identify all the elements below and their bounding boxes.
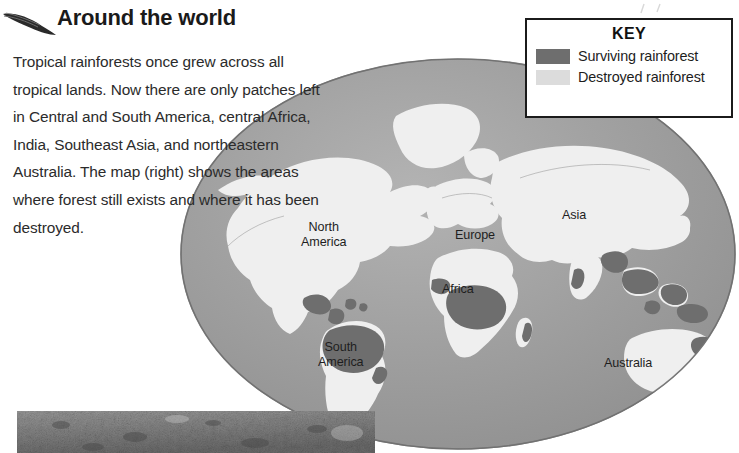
key-item-destroyed: Destroyed rainforest	[527, 69, 731, 85]
map-key-legend: KEY Surviving rainforest Destroyed rainf…	[525, 18, 733, 118]
key-title: KEY	[527, 25, 731, 43]
map-label-europe: Europe	[455, 228, 495, 243]
key-item-surviving: Surviving rainforest	[527, 48, 731, 64]
article-body: Tropical rainforests once grew across al…	[13, 48, 335, 241]
leaf-icon	[2, 10, 58, 38]
rainforest-photograph	[17, 411, 375, 453]
key-label-surviving: Surviving rainforest	[578, 48, 698, 64]
key-label-destroyed: Destroyed rainforest	[578, 69, 705, 85]
page-root: North America South America Europe Afric…	[0, 0, 739, 453]
page-title: Around the world	[57, 6, 236, 30]
map-label-australia: Australia	[604, 356, 652, 371]
map-label-south-america: South America	[318, 340, 364, 370]
article-body-text: Tropical rainforests once grew across al…	[13, 48, 335, 241]
map-label-asia: Asia	[562, 208, 586, 223]
map-label-africa: Africa	[442, 282, 474, 297]
key-swatch-surviving	[536, 49, 570, 64]
page-artifact	[635, 1, 677, 13]
key-swatch-destroyed	[536, 70, 570, 85]
